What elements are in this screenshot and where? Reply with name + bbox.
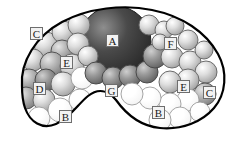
label-f: F [164,37,177,50]
label-b-right: B [152,106,165,119]
label-e-left: E [60,56,73,69]
label-a: A [106,34,119,47]
label-g: G [105,84,118,97]
label-b-left: B [59,110,72,123]
label-d: D [33,82,46,95]
sphere-packing-diagram: ACEDBGFECB [0,0,232,142]
label-e-right: E [177,80,190,93]
diagram-canvas [0,0,232,142]
void-ll-3 [69,89,91,111]
label-c-left: C [30,27,43,40]
label-c-right: C [203,86,216,99]
void-r-4 [121,83,143,105]
